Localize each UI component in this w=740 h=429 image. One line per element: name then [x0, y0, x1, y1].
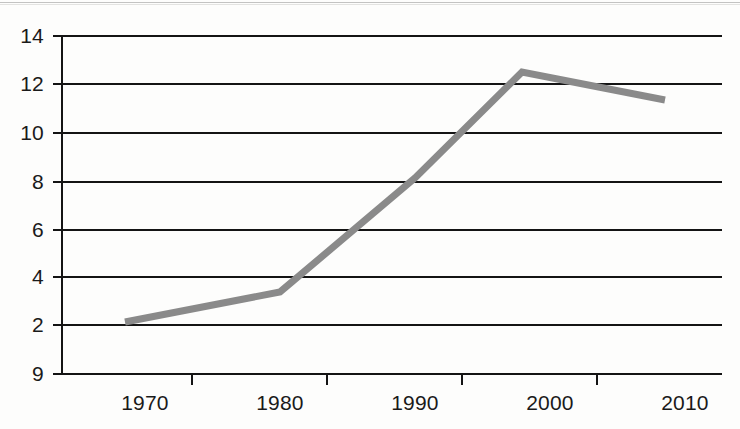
x-axis-label-2000: 2000	[505, 392, 595, 413]
data-line	[125, 72, 665, 322]
gridlines-group	[62, 36, 722, 374]
chart-container: 14121086429 19701980199020002010	[0, 0, 740, 429]
y-axis-label-9: 9	[0, 363, 44, 384]
x-axis-label-1970: 1970	[100, 392, 190, 413]
y-axis-label-8: 8	[0, 171, 44, 192]
line-chart-plot	[0, 0, 740, 429]
y-axis-label-14: 14	[0, 25, 44, 46]
y-axis-label-12: 12	[0, 73, 44, 94]
x-axis-label-1990: 1990	[370, 392, 460, 413]
x-tick-marks-group	[192, 374, 597, 385]
y-axis-label-10: 10	[0, 122, 44, 143]
x-axis-label-2010: 2010	[640, 392, 730, 413]
y-tick-marks-group	[53, 36, 62, 374]
y-axis-label-4: 4	[0, 266, 44, 287]
y-axis-label-6: 6	[0, 219, 44, 240]
x-axis-label-1980: 1980	[235, 392, 325, 413]
data-series-group	[125, 72, 665, 322]
y-axis-label-2: 2	[0, 314, 44, 335]
